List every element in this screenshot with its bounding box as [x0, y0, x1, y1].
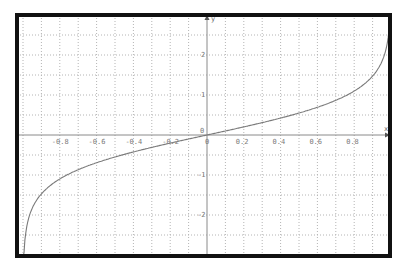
x-tick-label: 0 — [205, 138, 209, 146]
x-tick-label: 0.2 — [236, 138, 249, 146]
y-tick-label: 2 — [201, 51, 205, 59]
y-tick-label: -2 — [197, 211, 205, 219]
x-tick-label: 0.8 — [346, 138, 359, 146]
origin-label: 0 — [200, 127, 204, 135]
y-tick-label: -1 — [197, 171, 205, 179]
x-tick-label: 0.6 — [309, 138, 322, 146]
x-tick-label: -0.4 — [125, 138, 142, 146]
y-tick-label: 1 — [201, 91, 205, 99]
x-tick-label: -0.8 — [52, 138, 69, 146]
x-tick-label: -0.6 — [89, 138, 106, 146]
x-tick-label: 0.4 — [273, 138, 286, 146]
chart-plot-area: y x 0 -0.8-0.6-0.4-0.200.20.40.60.8-2-11… — [0, 0, 405, 269]
x-axis-label: x — [384, 125, 388, 133]
